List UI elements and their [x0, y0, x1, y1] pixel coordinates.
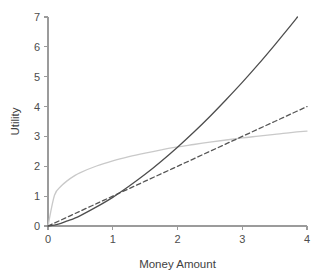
y-axis-title: Utility	[9, 107, 21, 135]
y-tick-label: 6	[34, 41, 40, 53]
y-tick-label: 0	[34, 220, 40, 232]
x-tick-label: 3	[239, 233, 245, 245]
x-tick-label: 1	[110, 233, 116, 245]
x-tick-label: 0	[45, 233, 51, 245]
y-tick-label: 7	[34, 11, 40, 23]
x-tick-label: 2	[174, 233, 180, 245]
series-convex-utility	[48, 17, 297, 226]
x-tick-label: 4	[304, 233, 310, 245]
utility-chart: 0123456701234Money AmountUtility	[0, 0, 324, 277]
x-axis-title: Money Amount	[139, 258, 217, 270]
chart-canvas: 0123456701234Money AmountUtility	[0, 0, 324, 277]
y-tick-label: 3	[34, 130, 40, 142]
y-tick-label: 5	[34, 71, 40, 83]
y-tick-label: 1	[34, 190, 40, 202]
y-tick-label: 4	[34, 101, 40, 113]
y-tick-label: 2	[34, 160, 40, 172]
series-linear-utility	[48, 107, 307, 226]
